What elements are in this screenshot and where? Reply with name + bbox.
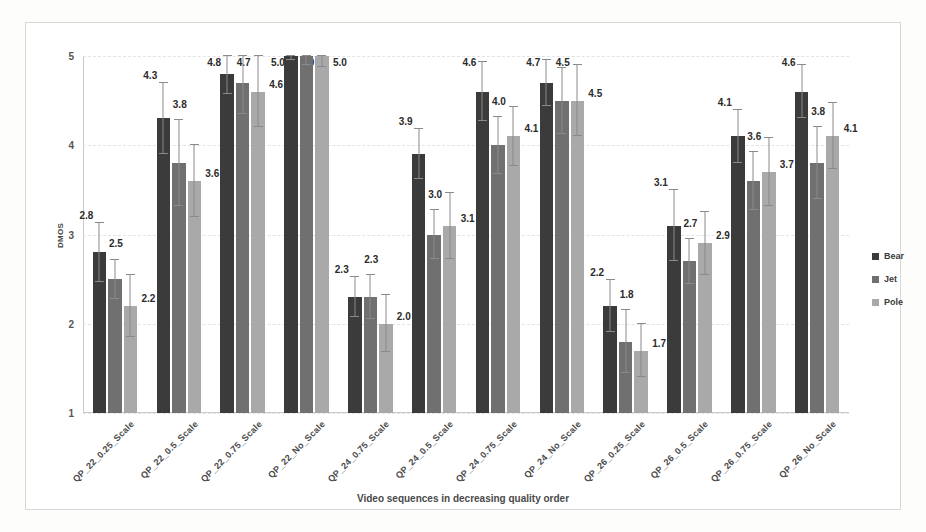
data-label: 4.1 bbox=[844, 123, 858, 134]
bar-pole[interactable] bbox=[826, 136, 840, 413]
data-label: 3.6 bbox=[205, 168, 219, 179]
error-cap-upper bbox=[223, 55, 232, 56]
error-cap-lower bbox=[813, 198, 822, 199]
bar-slot bbox=[540, 56, 554, 413]
bar-jet[interactable] bbox=[555, 101, 569, 413]
error-bar bbox=[434, 210, 435, 258]
y-tick-label: 4 bbox=[68, 140, 74, 151]
error-cap-lower bbox=[749, 209, 758, 210]
y-tick-label: 2 bbox=[68, 318, 74, 329]
error-cap-lower bbox=[238, 113, 247, 114]
bar-jet[interactable] bbox=[491, 145, 505, 413]
x-axis-title: Video sequences in decreasing quality or… bbox=[26, 493, 900, 504]
bar-bear[interactable] bbox=[731, 136, 745, 413]
bar-slot bbox=[124, 56, 138, 413]
chart-frame: DMOS 12345 2.82.52.24.33.83.64.84.74.65.… bbox=[25, 22, 901, 510]
data-label: 2.9 bbox=[716, 230, 730, 241]
legend-item[interactable]: Bear bbox=[872, 251, 926, 261]
error-bar bbox=[385, 295, 386, 352]
legend-item[interactable]: Pole bbox=[872, 297, 926, 307]
error-bar bbox=[227, 56, 228, 93]
data-label: 2.0 bbox=[397, 311, 411, 322]
bar-group bbox=[667, 56, 712, 413]
x-tick-label: QP_22_0.5_Scale bbox=[138, 419, 200, 481]
data-label: 4.6 bbox=[462, 57, 476, 68]
error-cap-lower bbox=[828, 168, 837, 169]
bar-jet[interactable] bbox=[108, 279, 122, 413]
data-label: 3.1 bbox=[461, 213, 475, 224]
bar-bear[interactable] bbox=[220, 74, 234, 413]
error-cap-upper bbox=[669, 189, 678, 190]
bar-slot bbox=[379, 56, 393, 413]
data-label: 4.5 bbox=[588, 88, 602, 99]
legend-item[interactable]: Jet bbox=[872, 274, 926, 284]
bar-bear[interactable] bbox=[157, 118, 171, 413]
bar-group bbox=[731, 56, 776, 413]
bar-jet[interactable] bbox=[810, 163, 824, 413]
x-tick-label: QP_22_0.75_Scale bbox=[198, 419, 263, 484]
legend-label: Bear bbox=[884, 251, 904, 261]
error-cap-lower bbox=[621, 372, 630, 373]
bar-group bbox=[476, 56, 521, 413]
bar-slot bbox=[603, 56, 617, 413]
bar-pole[interactable] bbox=[762, 172, 776, 413]
error-cap-lower bbox=[414, 178, 423, 179]
error-cap-lower bbox=[509, 165, 518, 166]
bar-pole[interactable] bbox=[571, 101, 585, 413]
plot-area: 12345 2.82.52.24.33.83.64.84.74.65.05.05… bbox=[83, 56, 849, 413]
data-label: 4.1 bbox=[524, 123, 538, 134]
data-label: 4.1 bbox=[718, 97, 732, 108]
bar-pole[interactable] bbox=[315, 56, 329, 413]
x-tick-label: QP_26_0.5_Scale bbox=[649, 419, 711, 481]
data-label: 4.3 bbox=[143, 70, 157, 81]
bar-jet[interactable] bbox=[683, 261, 697, 413]
error-cap-lower bbox=[254, 126, 263, 127]
error-bar bbox=[497, 117, 498, 174]
bar-bear[interactable] bbox=[412, 154, 426, 413]
legend-swatch-icon bbox=[872, 253, 879, 260]
error-bar bbox=[163, 83, 164, 154]
bar-slot bbox=[795, 56, 809, 413]
bar-bear[interactable] bbox=[284, 56, 298, 413]
error-cap-upper bbox=[381, 294, 390, 295]
bar-group bbox=[93, 56, 138, 413]
gridline bbox=[83, 413, 849, 414]
data-label: 2.8 bbox=[79, 210, 93, 221]
error-cap-upper bbox=[637, 323, 646, 324]
bar-bear[interactable] bbox=[795, 92, 809, 413]
error-cap-lower bbox=[637, 376, 646, 377]
error-bar bbox=[99, 223, 100, 282]
bar-jet[interactable] bbox=[747, 181, 761, 413]
error-cap-lower bbox=[557, 133, 566, 134]
error-cap-lower bbox=[95, 281, 104, 282]
bar-jet[interactable] bbox=[427, 235, 441, 414]
error-bar bbox=[689, 239, 690, 284]
bar-slot bbox=[762, 56, 776, 413]
bar-slot bbox=[747, 56, 761, 413]
error-bar bbox=[546, 60, 547, 106]
error-cap-lower bbox=[430, 258, 439, 259]
error-cap-lower bbox=[542, 105, 551, 106]
bar-jet[interactable] bbox=[300, 56, 314, 413]
error-cap-lower bbox=[797, 117, 806, 118]
error-bar bbox=[449, 193, 450, 259]
bar-slot bbox=[236, 56, 250, 413]
bar-bear[interactable] bbox=[540, 83, 554, 413]
bar-slot bbox=[108, 56, 122, 413]
legend-swatch-icon bbox=[872, 299, 879, 306]
error-cap-lower bbox=[700, 274, 709, 275]
error-cap-upper bbox=[190, 144, 199, 145]
error-bar bbox=[753, 152, 754, 209]
bar-bear[interactable] bbox=[476, 92, 490, 413]
bar-group bbox=[540, 56, 585, 413]
error-cap-upper bbox=[478, 61, 487, 62]
error-bar bbox=[832, 103, 833, 169]
x-tick-label: QP_24_No_Scale bbox=[522, 419, 583, 480]
data-label: 4.6 bbox=[269, 79, 283, 90]
bar-slot bbox=[571, 56, 585, 413]
bar-jet[interactable] bbox=[236, 83, 250, 413]
error-cap-upper bbox=[493, 116, 502, 117]
bar-pole[interactable] bbox=[507, 136, 521, 413]
bar-pole[interactable] bbox=[251, 92, 265, 413]
x-tick-label: QP_24_0.75_Scale bbox=[326, 419, 391, 484]
